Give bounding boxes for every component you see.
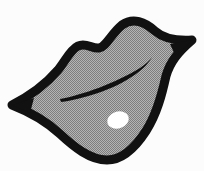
lips-illustration: Lips Black and white clip art of a pair … bbox=[0, 0, 204, 171]
artboard: Lips Black and white clip art of a pair … bbox=[0, 0, 204, 171]
